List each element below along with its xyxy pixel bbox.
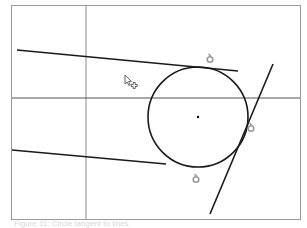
drawing-frame <box>12 6 301 220</box>
circle-center-point[interactable] <box>197 116 199 118</box>
figure-caption: Figure 11: Circle tangent to lines <box>14 219 129 228</box>
drawing-canvas[interactable] <box>0 0 307 228</box>
